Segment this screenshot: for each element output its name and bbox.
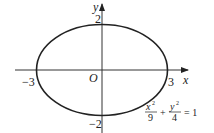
tick-label-y-pos: 2: [95, 12, 101, 26]
ellipse-equation: x 2 9 + y 2 4 = 1: [145, 100, 197, 123]
tick-label-x-neg: −3: [22, 75, 35, 89]
eq-plus: +: [160, 107, 166, 118]
eq-exp1: 2: [152, 100, 155, 106]
ellipse-diagram: y x O −3 3 2 −2 x 2 9 + y 2 4 = 1: [0, 0, 214, 133]
x-axis-label: x: [182, 73, 189, 87]
eq-rhs: = 1: [184, 107, 197, 118]
eq-den1: 9: [148, 112, 153, 123]
eq-den2: 4: [172, 112, 177, 123]
tick-label-x-pos: 3: [168, 75, 174, 89]
origin-label: O: [89, 71, 98, 85]
eq-num1: x: [145, 101, 151, 112]
eq-exp2: 2: [176, 100, 179, 106]
eq-num2: y: [169, 101, 175, 112]
tick-label-y-neg: −2: [89, 117, 102, 131]
